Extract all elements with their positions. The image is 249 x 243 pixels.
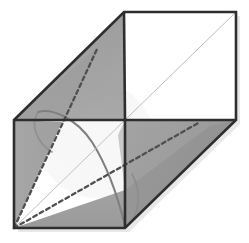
- geometry-figure-svg: Cube with inscribed cone, oblique projec…: [0, 0, 249, 243]
- edge-vertical-mid: [124, 12, 125, 120]
- geometry-figure-container: Cube with inscribed cone, oblique projec…: [0, 0, 249, 243]
- back-face: [125, 12, 236, 120]
